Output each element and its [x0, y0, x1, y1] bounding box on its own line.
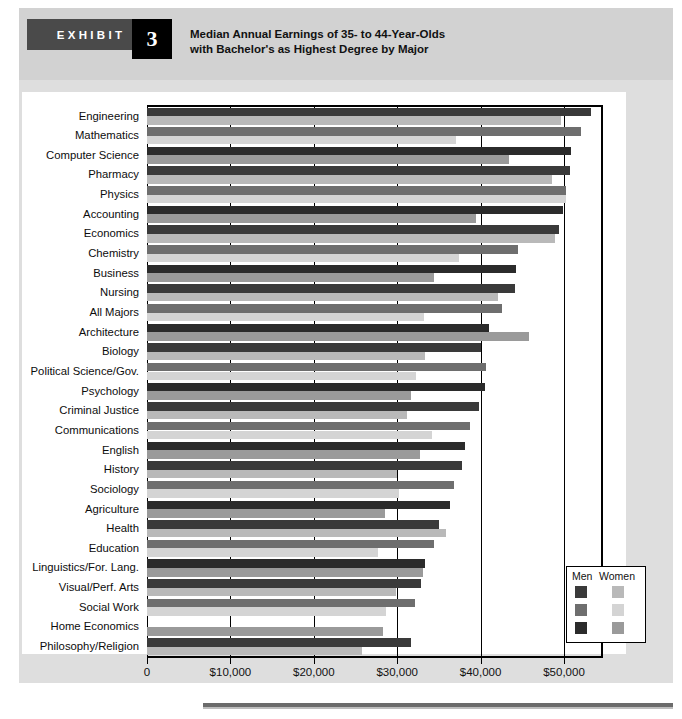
category-label: English — [0, 444, 143, 456]
bar-men — [147, 638, 411, 647]
bar-women — [147, 372, 416, 381]
category-label: Engineering — [0, 110, 143, 122]
bar-men — [147, 383, 485, 392]
bar-men — [147, 147, 571, 156]
axis-tick-label: 0 — [144, 666, 150, 678]
legend-swatch-women — [612, 622, 624, 634]
category-label: Physics — [0, 188, 143, 200]
legend-header-men: Men — [572, 570, 592, 582]
bar-men — [147, 127, 581, 136]
bar-men — [147, 540, 434, 549]
bar-women — [147, 136, 456, 145]
bar-women — [147, 175, 552, 184]
bar-women — [147, 548, 378, 557]
bar-women — [147, 293, 498, 302]
bar-women — [147, 607, 386, 616]
bar-women — [147, 116, 561, 125]
axis-tick-label: $20,000 — [293, 666, 335, 678]
category-label: Communications — [0, 424, 143, 436]
legend-swatch-women — [612, 586, 624, 598]
axis-tick — [147, 657, 148, 664]
axis-tick-label: $10,000 — [210, 666, 252, 678]
axis-tick — [314, 657, 315, 664]
category-label: Education — [0, 542, 143, 554]
category-label: Criminal Justice — [0, 404, 143, 416]
category-label: Home Economics — [0, 620, 143, 632]
bar-men — [147, 599, 415, 608]
page-title: Median Annual Earnings of 35- to 44-Year… — [190, 27, 610, 57]
bar-men — [147, 225, 559, 234]
exhibit-page: EXHIBIT 3 Median Annual Earnings of 35- … — [0, 0, 682, 719]
legend: Men Women — [566, 566, 646, 643]
category-label: Health — [0, 522, 143, 534]
bar-men — [147, 284, 515, 293]
category-label: History — [0, 463, 143, 475]
axis-tick — [564, 657, 565, 664]
category-label: Social Work — [0, 601, 143, 613]
axis-tick — [397, 657, 398, 664]
bar-women — [147, 155, 509, 164]
bar-women — [147, 273, 434, 282]
category-label: Sociology — [0, 483, 143, 495]
exhibit-number: 3 — [132, 19, 172, 59]
bar-women — [147, 391, 411, 400]
bar-men — [147, 324, 489, 333]
category-label: Business — [0, 267, 143, 279]
axis-tick — [481, 657, 482, 664]
axis-tick — [230, 657, 231, 664]
category-label: Linguistics/For. Lang. — [0, 561, 143, 573]
bar-men — [147, 501, 450, 510]
category-label: Visual/Perf. Arts — [0, 581, 143, 593]
bar-women — [147, 352, 425, 361]
legend-swatch-men — [575, 586, 587, 598]
bar-men — [147, 579, 421, 588]
category-label: Computer Science — [0, 149, 143, 161]
axis-tick-label: $30,000 — [376, 666, 418, 678]
category-label: Chemistry — [0, 247, 143, 259]
category-label: Philosophy/Religion — [0, 640, 143, 652]
bar-men — [147, 166, 570, 175]
bar-women — [147, 509, 385, 518]
category-label: Agriculture — [0, 503, 143, 515]
bar-men — [147, 186, 566, 195]
bar-men — [147, 402, 479, 411]
bar-women — [147, 470, 397, 479]
bar-men — [147, 265, 516, 274]
title-line-1: Median Annual Earnings of 35- to 44-Year… — [190, 27, 610, 42]
bar-women — [147, 529, 446, 538]
category-label: Economics — [0, 227, 143, 239]
legend-swatch-women — [612, 604, 624, 616]
bar-men — [147, 363, 486, 372]
category-label: Accounting — [0, 208, 143, 220]
bar-women — [147, 411, 407, 420]
bar-women — [147, 568, 423, 577]
bar-men — [147, 304, 502, 313]
bar-women — [147, 588, 396, 597]
bar-men — [147, 343, 481, 352]
category-label: Psychology — [0, 385, 143, 397]
axis-tick-label: $50,000 — [543, 666, 585, 678]
bar-men — [147, 245, 518, 254]
category-label: All Majors — [0, 306, 143, 318]
bar-women — [147, 313, 424, 322]
bar-women — [147, 489, 399, 498]
category-label: Political Science/Gov. — [0, 365, 143, 377]
category-label: Mathematics — [0, 129, 143, 141]
bar-women — [147, 195, 566, 204]
bar-women — [147, 332, 529, 341]
bar-women — [147, 214, 476, 223]
bar-men — [147, 442, 465, 451]
footer-rule-shadow — [203, 707, 673, 709]
plot-border-bottom — [147, 656, 603, 658]
plot-border-top — [147, 105, 602, 107]
bar-women — [147, 254, 459, 263]
bar-men — [147, 520, 439, 529]
category-label: Architecture — [0, 326, 143, 338]
bar-women — [147, 234, 555, 243]
bar-men — [147, 206, 563, 215]
title-line-2: with Bachelor's as Highest Degree by Maj… — [190, 42, 610, 57]
category-label: Biology — [0, 345, 143, 357]
legend-swatch-men — [575, 604, 587, 616]
legend-header-women: Women — [599, 570, 635, 582]
axis-tick-label: $40,000 — [460, 666, 502, 678]
